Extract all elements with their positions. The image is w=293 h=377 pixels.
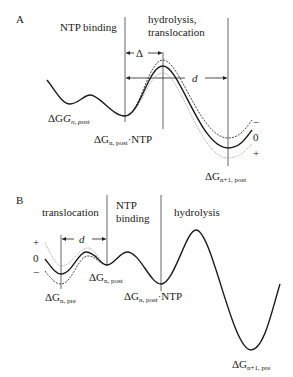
panel-a-curve-minus [125,60,252,138]
panel-a-delta-arrow: Δ [126,47,162,59]
panel-b-sign-plus: + [33,236,39,248]
panel-b-label-n-pre: ΔGn, pre [45,291,76,305]
panel-a-label-n-post-ntp: ΔGn, post·NTP [94,133,152,147]
panel-b: B translocation NTP binding hydrolysis d… [16,194,280,372]
panel-b-label-n1-pre: ΔGn+1, pre [232,358,270,372]
panel-a-curve-plus [125,73,252,158]
panel-b-region-translocation: translocation [42,206,99,218]
energy-landscape-figure: A NTP binding hydrolysis, translocation … [0,0,293,377]
panel-a-sign-plus: + [253,147,259,159]
panel-b-sign-zero: 0 [33,252,39,264]
panel-b-d-arrow: d [62,233,106,245]
panel-b-region-ntp: NTP [116,199,137,211]
panel-a-letter: A [16,13,24,25]
panel-a-region-ntp-binding: NTP binding [60,21,117,33]
panel-a-region-hydrolysis: hydrolysis, [148,13,197,25]
panel-b-region-binding: binding [116,212,150,224]
panel-b-label-n-post: ΔGn, post [89,271,123,285]
panel-a-sign-zero: 0 [253,131,259,143]
panel-b-label-n-post-ntp: ΔGn, post·NTP [124,290,182,304]
panel-b-d-label: d [79,233,85,245]
panel-b-curve-plus [45,243,107,266]
panel-a-d-label: d [192,72,198,84]
panel-b-sign-minus: − [33,266,39,278]
panel-b-region-hydrolysis: hydrolysis [174,206,220,218]
panel-a-label-n-post: ΔGGn, post [48,112,91,126]
panel-a-region-translocation: translocation [148,26,205,38]
panel-a-delta-label: Δ [136,47,143,59]
panel-b-letter: B [16,194,23,206]
panel-a-sign-minus: − [253,116,259,128]
panel-a: A NTP binding hydrolysis, translocation … [16,13,259,184]
panel-a-label-n1-post: ΔGn+1, post [205,170,246,184]
